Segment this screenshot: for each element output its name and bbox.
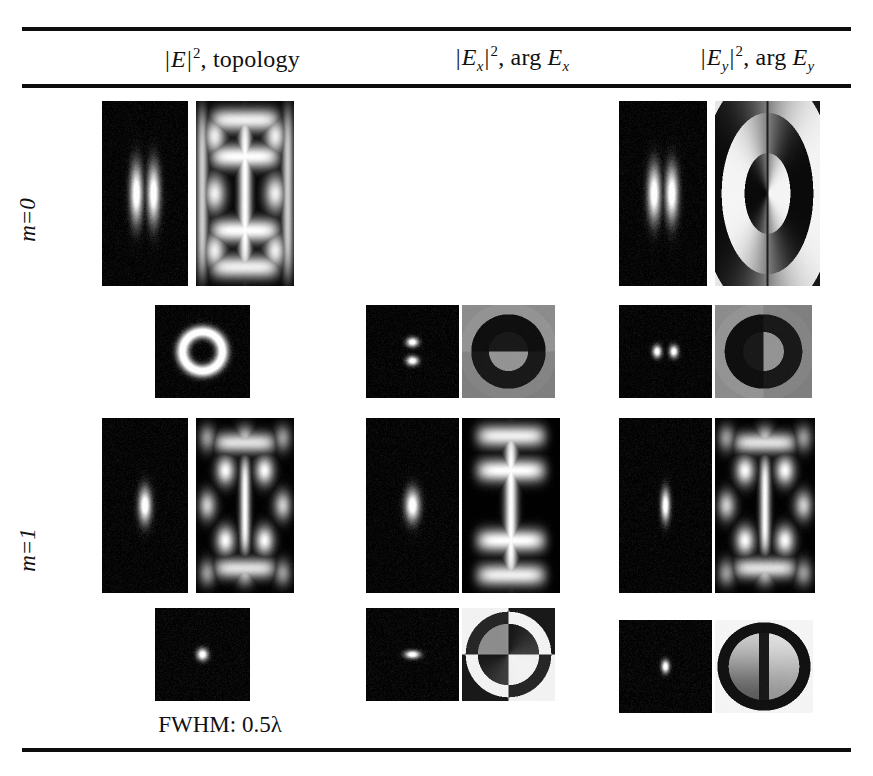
- phase-m0-ey-longitudinal-canvas: [715, 101, 820, 286]
- topology-m1-ey-longitudinal-canvas: [715, 418, 815, 593]
- phase-m1-ex-transverse: [462, 305, 555, 398]
- intensity-m1-ex-longitudinal-canvas: [366, 418, 459, 593]
- intensity-m1-ey-transverse: [619, 305, 712, 398]
- phase-m1-ex-focal: [462, 608, 555, 701]
- topology-m0-total-longitudinal-canvas: [196, 101, 294, 286]
- intensity-m1-ex-longitudinal: [366, 418, 459, 593]
- topology-m1-ex-longitudinal: [462, 418, 560, 593]
- intensity-m1-ex-focal-canvas: [366, 608, 459, 701]
- intensity-m1-ex-transverse-canvas: [366, 305, 459, 398]
- intensity-m1-ey-focal: [619, 620, 712, 713]
- intensity-m1-ey-longitudinal: [619, 418, 712, 593]
- intensity-m1-total-transverse-canvas: [155, 305, 250, 398]
- intensity-m1-total-focal-canvas: [155, 608, 250, 701]
- fwhm-caption: FWHM: 0.5λ: [95, 712, 345, 738]
- phase-m1-ey-focal: [715, 620, 813, 713]
- phase-m0-ey-longitudinal: [715, 101, 820, 286]
- intensity-m1-total-transverse: [155, 305, 250, 398]
- phase-m1-ey-transverse: [715, 305, 812, 398]
- intensity-m0-total-longitudinal-canvas: [102, 101, 188, 286]
- topology-m1-ex-longitudinal-canvas: [462, 418, 560, 593]
- panel-grid: [0, 0, 873, 776]
- topology-m1-total-longitudinal: [196, 418, 294, 593]
- phase-m1-ex-focal-canvas: [462, 608, 555, 701]
- intensity-m1-total-focal: [155, 608, 250, 701]
- topology-m1-total-longitudinal-canvas: [196, 418, 294, 593]
- intensity-m1-total-longitudinal-canvas: [102, 418, 188, 593]
- intensity-m0-total-longitudinal: [102, 101, 188, 286]
- topology-m1-ey-longitudinal: [715, 418, 815, 593]
- phase-m1-ex-transverse-canvas: [462, 305, 555, 398]
- phase-m1-ey-focal-canvas: [715, 620, 813, 713]
- intensity-m0-ey-longitudinal-canvas: [619, 101, 707, 286]
- topology-m0-total-longitudinal: [196, 101, 294, 286]
- intensity-m1-ex-focal: [366, 608, 459, 701]
- intensity-m1-ey-focal-canvas: [619, 620, 712, 713]
- intensity-m0-ey-longitudinal: [619, 101, 707, 286]
- intensity-m1-ex-transverse: [366, 305, 459, 398]
- intensity-m1-ey-transverse-canvas: [619, 305, 712, 398]
- figure-root: |E|2, topology |Ex|2, arg Ex |Ey|2, arg …: [0, 0, 873, 776]
- intensity-m1-ey-longitudinal-canvas: [619, 418, 712, 593]
- intensity-m1-total-longitudinal: [102, 418, 188, 593]
- phase-m1-ey-transverse-canvas: [715, 305, 812, 398]
